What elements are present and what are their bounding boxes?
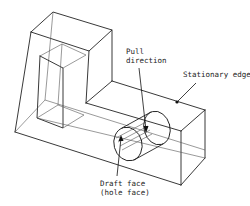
draft-face-label: Draft face (hole face) <box>100 179 150 197</box>
leaders <box>117 68 196 176</box>
arrow-up-icon <box>119 135 124 141</box>
stationary-edge-label: Stationary edge <box>183 70 250 79</box>
stationary-edge-dot-icon <box>175 100 178 103</box>
draft-face-line1: Draft face <box>100 179 150 188</box>
diagram-canvas: Pull direction Stationary edge Draft fac… <box>0 0 250 206</box>
block-wireframe <box>0 0 250 206</box>
lower-block <box>15 81 205 185</box>
pull-direction-line2: direction <box>126 56 167 65</box>
pull-direction-label: Pull direction <box>126 47 167 65</box>
draft-face-line2: (hole face) <box>100 188 150 197</box>
slot-pocket <box>37 44 86 128</box>
pull-direction-line1: Pull <box>126 47 167 56</box>
tall-block <box>15 12 112 132</box>
cylindrical-hole <box>110 108 174 164</box>
